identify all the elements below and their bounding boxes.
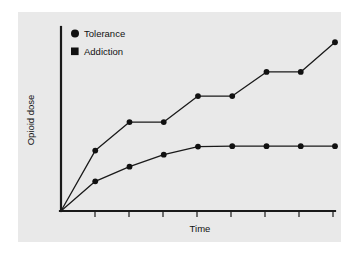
data-point [332,39,338,45]
data-point [195,93,201,99]
series-line-tolerance [61,146,335,211]
chart-plot-area: Tolerance Addiction Opioid dose Time [0,0,357,254]
data-point [161,152,167,158]
series-line-addiction [61,42,335,211]
data-point [127,164,133,170]
chart-figure: Tolerance Addiction Opioid dose Time [0,0,357,254]
data-point [332,143,338,149]
circle-marker-icon [71,30,79,38]
data-point [264,143,270,149]
data-point [229,143,235,149]
y-axis-title: Opioid dose [25,95,36,146]
data-point [298,69,304,75]
legend-label-tolerance: Tolerance [84,28,125,39]
legend-label-addiction: Addiction [84,46,123,57]
chart-legend: Tolerance Addiction [71,28,125,57]
x-axis-title: Time [190,223,211,234]
data-point [264,69,270,75]
data-point [195,144,201,150]
data-point [127,119,133,125]
data-point [92,148,98,154]
data-point [92,178,98,184]
data-point [229,93,235,99]
data-point [161,119,167,125]
data-point [298,143,304,149]
series-markers-tolerance [92,143,338,184]
square-marker-icon [71,48,79,56]
